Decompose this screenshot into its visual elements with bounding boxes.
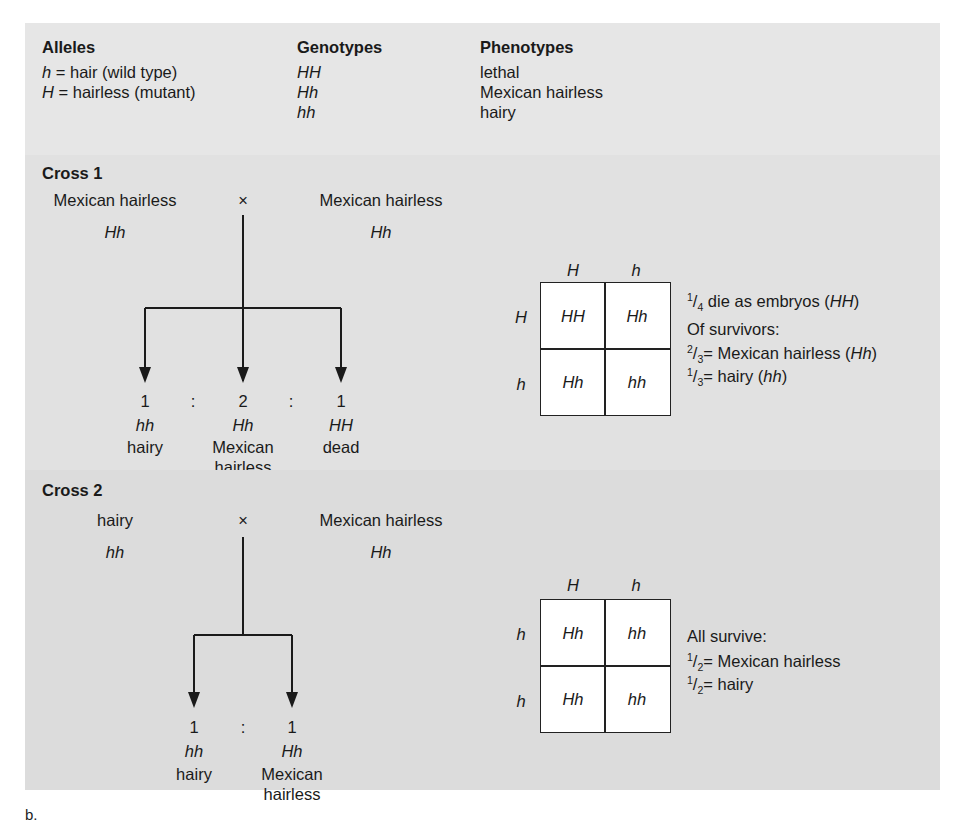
genotype-item: hh	[297, 102, 315, 122]
punnett-row-header: h	[516, 624, 525, 644]
fraction-numerator: 1	[687, 674, 693, 686]
offspring-phenotype: hairy	[176, 764, 212, 784]
phenotype-item: Mexican hairless	[480, 82, 603, 102]
note-close: )	[854, 292, 860, 310]
offspring-genotype: Hh	[232, 415, 253, 435]
phenotype-item: lethal	[480, 62, 519, 82]
offspring-ratio: 1	[287, 717, 296, 737]
cross2-branch-arrows	[25, 470, 940, 790]
allele-eq: =	[54, 83, 73, 101]
punnett-cell: Hh	[541, 666, 605, 732]
allele-H-row: H = hairless (mutant)	[42, 82, 196, 102]
note-text: die as embryos (	[703, 292, 830, 310]
note-text: = Mexican hairless (	[703, 344, 850, 362]
offspring-genotype: Hh	[281, 741, 302, 761]
offspring-phenotype: dead	[323, 437, 360, 457]
offspring-ratio: 1	[189, 717, 198, 737]
phenotypes-heading: Phenotypes	[480, 37, 574, 57]
allele-h-row: h = hair (wild type)	[42, 62, 177, 82]
genetics-figure-panel: Alleles h = hair (wild type) H = hairles…	[25, 23, 940, 790]
note-text: = hairy (	[703, 367, 763, 385]
offspring-ratio: 1	[140, 391, 149, 411]
punnett-col-header: h	[631, 260, 640, 280]
cross1-note-embryos: 1/4 die as embryos (HH)	[687, 291, 859, 311]
punnett-square: HH Hh Hh hh	[540, 282, 671, 416]
fraction-numerator: 1	[687, 651, 693, 663]
allele-eq: =	[51, 63, 70, 81]
punnett-row-header: h	[516, 374, 525, 394]
fraction-numerator: 1	[687, 366, 693, 378]
punnett-cell: hh	[605, 666, 669, 732]
cross2-note-all-survive: All survive:	[687, 626, 767, 646]
note-genotype: hh	[763, 367, 781, 385]
note-text: = Mexican hairless	[703, 652, 840, 670]
note-genotype: Hh	[850, 344, 871, 362]
cross1-branch-arrows	[25, 155, 940, 470]
allele-symbol: H	[42, 83, 54, 101]
punnett-row-header: h	[516, 691, 525, 711]
cross2-note-hairy-ratio: 1/2= hairy	[687, 674, 753, 694]
note-close: )	[782, 367, 788, 385]
allele-symbol: h	[42, 63, 51, 81]
punnett-col-header: H	[567, 260, 579, 280]
alleles-heading: Alleles	[42, 37, 95, 57]
figure-label: b.	[25, 806, 38, 823]
offspring-phenotype-line2: hairless	[264, 784, 321, 804]
punnett-col-header: H	[567, 575, 579, 595]
punnett-row-header: H	[515, 307, 527, 327]
phenotype-item: hairy	[480, 102, 516, 122]
legend-section: Alleles h = hair (wild type) H = hairles…	[25, 23, 940, 155]
ratio-separator: :	[191, 391, 196, 411]
ratio-separator: :	[289, 391, 294, 411]
fraction-numerator: 1	[687, 291, 693, 303]
cross1-note-hairy-ratio: 1/3= hairy (hh)	[687, 366, 787, 386]
genotype-item: Hh	[297, 82, 318, 102]
offspring-phenotype: Mexican	[261, 764, 322, 784]
punnett-col-header: h	[631, 575, 640, 595]
allele-desc: hairless (mutant)	[73, 83, 196, 101]
punnett-cell: hh	[605, 600, 669, 666]
offspring-ratio: 2	[238, 391, 247, 411]
note-text: = hairy	[703, 675, 753, 693]
offspring-genotype: HH	[329, 415, 353, 435]
fraction-numerator: 2	[687, 343, 693, 355]
punnett-cell: HH	[541, 283, 605, 349]
allele-desc: hair (wild type)	[70, 63, 177, 81]
offspring-genotype: hh	[136, 415, 154, 435]
genotypes-heading: Genotypes	[297, 37, 382, 57]
ratio-separator: :	[241, 717, 246, 737]
punnett-cell: hh	[605, 349, 669, 415]
cross1-section: Cross 1 Mexican hairless Hh × Mexican ha…	[25, 155, 940, 470]
cross2-note-hairless-ratio: 1/2= Mexican hairless	[687, 651, 840, 671]
cross1-note-hairless-ratio: 2/3= Mexican hairless (Hh)	[687, 343, 877, 363]
note-genotype: HH	[830, 292, 854, 310]
offspring-ratio: 1	[336, 391, 345, 411]
punnett-cell: Hh	[541, 600, 605, 666]
cross2-section: Cross 2 hairy hh × Mexican hairless Hh 1…	[25, 470, 940, 790]
offspring-genotype: hh	[185, 741, 203, 761]
punnett-cell: Hh	[605, 283, 669, 349]
punnett-square: Hh hh Hh hh	[540, 599, 671, 733]
note-close: )	[872, 344, 878, 362]
offspring-phenotype: Mexican	[212, 437, 273, 457]
offspring-phenotype: hairy	[127, 437, 163, 457]
genotype-item: HH	[297, 62, 321, 82]
cross1-note-survivors: Of survivors:	[687, 319, 780, 339]
punnett-cell: Hh	[541, 349, 605, 415]
